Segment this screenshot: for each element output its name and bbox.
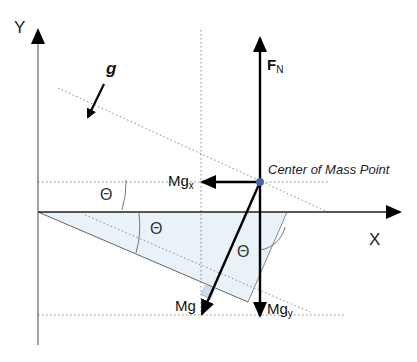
center-of-mass-annotation: Center of Mass Point — [268, 163, 389, 176]
weight-label: Mg — [175, 298, 196, 313]
angle-theta-2: Θ — [150, 221, 162, 237]
angle-theta-1: Θ — [100, 187, 112, 203]
diagram-canvas — [0, 0, 417, 362]
weight-x-label: Mgx — [168, 173, 194, 188]
normal-force-label: FN — [267, 57, 283, 72]
x-axis-label: X — [369, 231, 380, 248]
gravity-arrow — [88, 84, 104, 117]
center-of-mass-point — [256, 178, 264, 186]
y-axis-label: Y — [14, 19, 25, 36]
incline-wedge — [38, 212, 287, 302]
angle-theta-3: Θ — [237, 244, 249, 260]
weight-y-label: Mgy — [267, 301, 293, 316]
gravity-label: g — [106, 60, 116, 77]
